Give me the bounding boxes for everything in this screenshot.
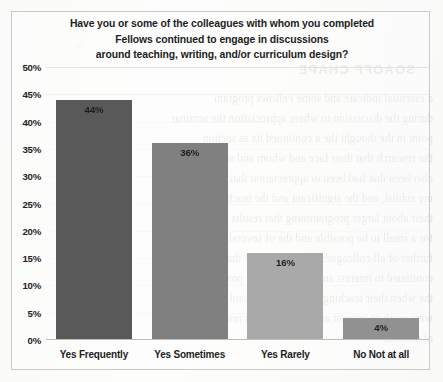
y-axis-tick-label: 10% xyxy=(22,280,41,291)
chart-frame: Have you or some of the colleagues with … xyxy=(11,11,430,370)
y-axis-tick-label: 0% xyxy=(28,335,41,346)
x-axis-category-label: Yes Frequently xyxy=(50,349,138,360)
bar[interactable]: 44% xyxy=(56,100,132,340)
y-axis-tick-label: 30% xyxy=(22,171,41,182)
chart-title-line-2: Fellows continued to engage in discussio… xyxy=(34,32,410,48)
bar-value-label: 44% xyxy=(56,104,132,115)
y-axis-tick-label: 35% xyxy=(22,143,41,154)
y-axis-tick-label: 45% xyxy=(22,89,41,100)
bar-value-label: 4% xyxy=(343,322,419,333)
chart-title: Have you or some of the colleagues with … xyxy=(34,16,410,63)
bar-value-label: 16% xyxy=(247,257,323,268)
x-axis-category-label: No Not at all xyxy=(337,349,425,360)
y-axis-tick-label: 25% xyxy=(22,198,41,209)
x-axis-category-label: Yes Sometimes xyxy=(146,349,234,360)
y-axis-tick-label: 40% xyxy=(22,116,41,127)
bar[interactable]: 36% xyxy=(152,143,228,340)
y-axis-tick-label: 50% xyxy=(22,62,41,73)
y-axis-tick-label: 20% xyxy=(22,225,41,236)
bar-group: 4%No Not at all xyxy=(343,67,419,340)
bar[interactable]: 4% xyxy=(343,318,419,340)
bar-group: 44%Yes Frequently xyxy=(56,67,132,340)
bar-group: 36%Yes Sometimes xyxy=(152,67,228,340)
bar-value-label: 36% xyxy=(152,147,228,158)
plot-area: 50%45%40%35%30%25%20%15%10%5%0% 44%Yes F… xyxy=(46,67,429,340)
x-axis-category-label: Yes Rarely xyxy=(241,349,329,360)
bar-series: 44%Yes Frequently36%Yes Sometimes16%Yes … xyxy=(46,67,429,340)
y-axis-tick-label: 15% xyxy=(22,253,41,264)
chart-title-line-1: Have you or some of the colleagues with … xyxy=(34,16,410,32)
bar-group: 16%Yes Rarely xyxy=(247,67,323,340)
bar[interactable]: 16% xyxy=(247,253,323,340)
chart-title-line-3: around teaching, writing, and/or curricu… xyxy=(34,47,410,63)
x-axis-line xyxy=(46,339,429,340)
y-axis-tick-label: 5% xyxy=(28,307,41,318)
scanned-page: SOAOFF CHAPE a essential indicate and so… xyxy=(0,0,443,382)
